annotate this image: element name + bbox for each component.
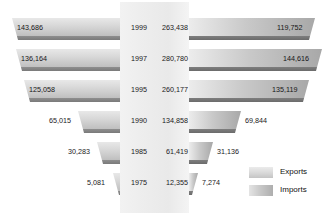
imports-value-label: 144,616 bbox=[283, 55, 309, 62]
butterfly-bar-chart: 143,686 1999 263,438 119,752 136,164 199… bbox=[0, 0, 329, 215]
bar-base bbox=[189, 36, 315, 40]
bar-base bbox=[97, 160, 120, 164]
bar-face bbox=[113, 173, 120, 191]
bar-base bbox=[24, 98, 120, 102]
exports-bar bbox=[78, 111, 120, 133]
bar-base bbox=[189, 191, 198, 195]
bar-base bbox=[113, 191, 120, 195]
chart-row: 65,015 1990 134,858 69,844 bbox=[0, 111, 329, 135]
exports-swatch-icon bbox=[249, 167, 273, 178]
imports-swatch-icon bbox=[249, 185, 273, 196]
row-total-label: 280,780 bbox=[150, 55, 188, 62]
row-total-label: 61,419 bbox=[150, 148, 188, 155]
imports-value-label: 7,274 bbox=[202, 179, 220, 186]
row-year-label: 1975 bbox=[131, 179, 147, 186]
exports-value-label: 30,283 bbox=[68, 148, 90, 155]
row-year-label: 1997 bbox=[131, 55, 147, 62]
bar-base bbox=[16, 67, 120, 71]
exports-value-label: 5,081 bbox=[87, 179, 105, 186]
row-year-label: 1999 bbox=[131, 24, 147, 31]
exports-value-label: 65,015 bbox=[49, 117, 71, 124]
imports-bar bbox=[189, 142, 213, 164]
bar-base bbox=[189, 160, 213, 164]
row-total-label: 134,858 bbox=[150, 117, 188, 124]
imports-value-label: 119,752 bbox=[277, 24, 302, 31]
bar-face bbox=[189, 142, 213, 160]
exports-value-label: 143,686 bbox=[17, 24, 43, 31]
exports-bar bbox=[97, 142, 120, 164]
bar-face bbox=[189, 173, 198, 191]
chart-row: 30,283 1985 61,419 31,136 bbox=[0, 142, 329, 166]
row-year-label: 1995 bbox=[131, 86, 147, 93]
chart-row: 136,164 1997 280,780 144,616 bbox=[0, 49, 329, 73]
chart-row: 125,058 1995 260,177 135,119 bbox=[0, 80, 329, 104]
row-total-label: 260,177 bbox=[150, 86, 188, 93]
bar-face bbox=[189, 111, 241, 129]
imports-value-label: 135,119 bbox=[272, 86, 297, 93]
exports-value-label: 136,164 bbox=[21, 55, 47, 62]
bar-base bbox=[78, 129, 120, 133]
chart-rows: 143,686 1999 263,438 119,752 136,164 199… bbox=[0, 0, 329, 215]
bar-base bbox=[189, 129, 241, 133]
imports-bar bbox=[189, 173, 198, 195]
legend-label-exports: Exports bbox=[280, 168, 307, 176]
row-total-label: 12,355 bbox=[150, 179, 188, 186]
bar-face bbox=[97, 142, 120, 160]
bar-base bbox=[189, 98, 309, 102]
bar-base bbox=[189, 67, 322, 71]
exports-value-label: 125,058 bbox=[29, 86, 55, 93]
exports-bar bbox=[113, 173, 120, 195]
row-total-label: 263,438 bbox=[150, 24, 188, 31]
row-year-label: 1985 bbox=[131, 148, 147, 155]
chart-row: 143,686 1999 263,438 119,752 bbox=[0, 18, 329, 42]
imports-bar bbox=[189, 111, 241, 133]
imports-value-label: 69,844 bbox=[245, 117, 267, 124]
bar-base bbox=[12, 36, 120, 40]
legend-label-imports: Imports bbox=[280, 186, 307, 194]
bar-face bbox=[78, 111, 120, 129]
imports-value-label: 31,136 bbox=[217, 148, 239, 155]
row-year-label: 1990 bbox=[131, 117, 147, 124]
